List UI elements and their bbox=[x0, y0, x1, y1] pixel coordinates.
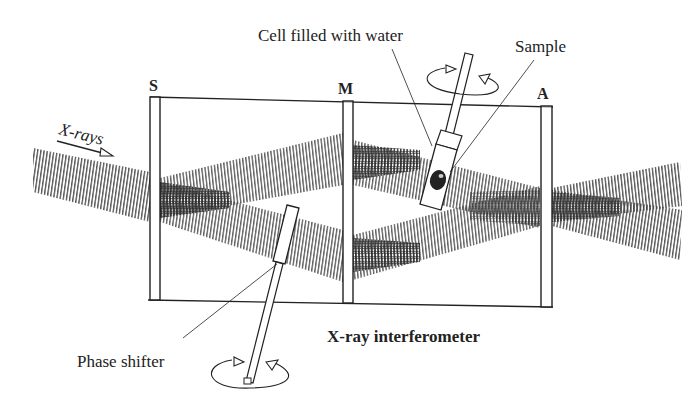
crystal-a-label: A bbox=[537, 85, 549, 102]
xray-interferometer-diagram: X-rays S M A Cell filled with water Samp… bbox=[0, 0, 696, 405]
crystal-m-label: M bbox=[338, 80, 353, 97]
sample-label: Sample bbox=[515, 37, 566, 56]
crystal-plate-a bbox=[541, 106, 552, 307]
phase-shifter-label: Phase shifter bbox=[77, 352, 165, 371]
crystal-plate-s bbox=[150, 97, 160, 300]
crystal-s-label: S bbox=[149, 77, 158, 94]
cell-leader-line bbox=[392, 49, 432, 146]
beams-s-to-m bbox=[160, 133, 343, 282]
crystal-plate-m bbox=[343, 101, 353, 303]
incoming-beam bbox=[33, 148, 150, 222]
xrays-label: X-rays bbox=[56, 119, 106, 149]
output-beams bbox=[552, 162, 682, 260]
interferometer-title: X-ray interferometer bbox=[327, 327, 481, 346]
cell-label: Cell filled with water bbox=[258, 26, 403, 45]
